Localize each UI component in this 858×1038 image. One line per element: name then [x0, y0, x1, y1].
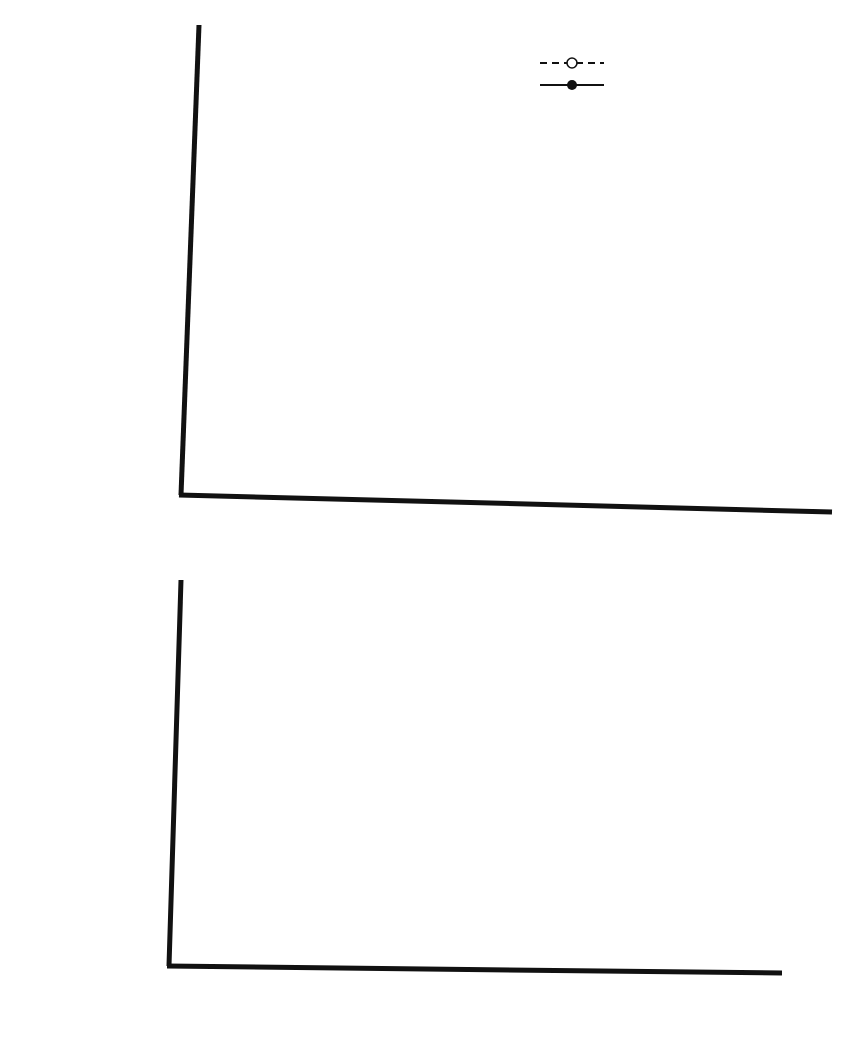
bottom-y-axis [169, 580, 181, 966]
nitrate-chart [167, 580, 782, 973]
legend-untreated-marker [567, 58, 577, 68]
fecal-coliform-chart [179, 25, 832, 512]
top-x-axis [179, 495, 832, 512]
figure [0, 0, 858, 1038]
top-y-axis [181, 25, 199, 495]
legend [540, 58, 604, 90]
legend-treated-marker [567, 80, 577, 90]
bottom-x-axis [167, 966, 782, 973]
